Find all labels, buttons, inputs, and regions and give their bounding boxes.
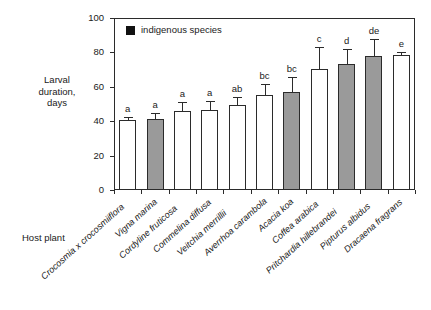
x-axis-tick-mark <box>278 190 279 194</box>
x-axis-tick-mark <box>251 190 252 194</box>
significance-letter: a <box>114 104 142 114</box>
bar-cordyline-fruticosa <box>174 111 191 190</box>
error-bar <box>265 84 266 95</box>
error-bar-cap <box>370 56 379 57</box>
error-bar-cap <box>124 117 133 118</box>
bar-veitchia-merrillii <box>229 105 246 190</box>
x-axis-tick-mark <box>114 190 115 194</box>
x-axis-tick-mark <box>415 190 416 194</box>
error-bar-cap <box>151 113 160 114</box>
bar-vigna-marina <box>147 119 164 190</box>
error-bar-cap <box>397 55 406 56</box>
error-bar-cap <box>151 119 160 120</box>
error-bar-cap <box>397 52 406 53</box>
significance-letter: e <box>387 39 415 49</box>
x-axis-tick-mark <box>333 190 334 194</box>
significance-letter: ab <box>223 84 251 94</box>
x-axis-tick-mark <box>196 190 197 194</box>
significance-letter: de <box>360 26 388 36</box>
legend: indigenous species <box>126 25 222 35</box>
error-bar <box>347 49 348 64</box>
error-bar <box>319 47 320 69</box>
error-bar-cap <box>315 47 324 48</box>
error-bar-cap <box>206 101 215 102</box>
bar-commelina-diffusa <box>201 110 218 190</box>
bar-pipturus-albidus <box>365 56 382 190</box>
y-axis-tick-label: 40 <box>78 116 104 126</box>
error-bar <box>237 97 238 105</box>
error-bar-cap <box>178 102 187 103</box>
x-axis-tick-mark <box>223 190 224 194</box>
error-bar-cap <box>261 84 270 85</box>
significance-letter: a <box>168 89 196 99</box>
bar-averrhoa-carambola <box>256 95 273 190</box>
bar-coffea-arabica <box>311 69 328 190</box>
error-bar-cap <box>233 97 242 98</box>
error-bar-cap <box>288 77 297 78</box>
x-axis-title: Host plant <box>22 232 65 243</box>
bar-crocosmia-x-crocosmiiflora <box>119 120 136 190</box>
error-bar-cap <box>343 64 352 65</box>
y-axis-tick-label: 60 <box>78 82 104 92</box>
y-axis-tick-label: 100 <box>78 13 104 23</box>
significance-letter: a <box>196 88 224 98</box>
bars-layer: aaaaabbcbccddee <box>114 18 415 190</box>
error-bar-cap <box>315 69 324 70</box>
x-axis-tick-mark <box>169 190 170 194</box>
y-axis-tick-label: 80 <box>78 47 104 57</box>
bar-acacia-koa <box>283 92 300 190</box>
x-axis-tick-mark <box>306 190 307 194</box>
error-bar-cap <box>288 92 297 93</box>
x-axis-tick-mark <box>388 190 389 194</box>
legend-label-indigenous: indigenous species <box>141 25 222 35</box>
bar-pritchardia-hillebrandei <box>338 64 355 190</box>
error-bar-cap <box>206 110 215 111</box>
y-axis-tick-label: 20 <box>78 151 104 161</box>
error-bar-cap <box>261 95 270 96</box>
significance-letter: a <box>141 100 169 110</box>
significance-letter: d <box>333 36 361 46</box>
significance-letter: bc <box>278 64 306 74</box>
error-bar <box>374 39 375 56</box>
error-bar-cap <box>233 105 242 106</box>
error-bar <box>182 102 183 111</box>
error-bar <box>210 101 211 110</box>
error-bar-cap <box>370 39 379 40</box>
significance-letter: bc <box>251 71 279 81</box>
error-bar-cap <box>178 111 187 112</box>
x-axis-category-labels: Crocosmia x crocosmiifloraVigna marinaCo… <box>0 190 431 310</box>
error-bar-cap <box>343 49 352 50</box>
bar-dracaena-fragrans <box>393 55 410 190</box>
chart-figure: Larval duration, days 020406080100 aaaaa… <box>0 0 431 310</box>
error-bar <box>292 77 293 92</box>
legend-swatch-indigenous-icon <box>126 26 135 35</box>
x-axis-tick-mark <box>360 190 361 194</box>
significance-letter: c <box>305 34 333 44</box>
x-axis-tick-mark <box>141 190 142 194</box>
error-bar-cap <box>124 120 133 121</box>
